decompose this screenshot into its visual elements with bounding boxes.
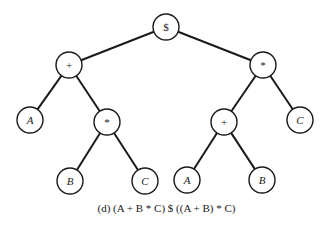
tree-node-b_r: B [249, 167, 275, 193]
expression-tree-figure: $+*A*+CBCAB (d) (A + B * C) $ ((A + B) *… [0, 0, 333, 226]
tree-node-a_r: A [174, 167, 200, 193]
tree-node-times_l: * [94, 109, 120, 135]
tree-edge-times_r-c_r [270, 76, 292, 109]
tree-node-root: $ [153, 14, 179, 40]
node-label: + [66, 59, 72, 71]
tree-edges [38, 32, 293, 170]
node-label: $ [163, 21, 169, 33]
node-label: * [260, 59, 266, 71]
node-label: B [67, 175, 74, 187]
expression-tree: $+*A*+CBCAB [0, 0, 333, 226]
tree-node-b_l: B [57, 168, 83, 194]
tree-node-plus_r: + [211, 109, 237, 135]
tree-node-plus_l: + [56, 52, 82, 78]
tree-edge-plus_r-b_r [231, 133, 255, 169]
tree-edge-plus_l-times_l [76, 76, 100, 111]
tree-edge-root-plus_l [81, 32, 154, 61]
tree-edge-plus_r-a_r [194, 133, 217, 169]
tree-node-a_l: A [17, 107, 43, 133]
tree-node-c_l: C [132, 168, 158, 194]
tree-node-c_r: C [287, 107, 313, 133]
node-label: * [104, 116, 110, 128]
node-label: + [221, 116, 227, 128]
node-label: C [141, 175, 149, 187]
node-label: A [26, 114, 34, 126]
tree-edge-plus_l-a_l [38, 76, 62, 110]
node-label: B [259, 174, 266, 186]
tree-edge-times_r-plus_r [231, 76, 255, 112]
node-label: C [296, 114, 304, 126]
tree-node-times_r: * [250, 52, 276, 78]
tree-edge-root-times_r [178, 32, 251, 61]
figure-caption: (d) (A + B * C) $ ((A + B) * C) [0, 202, 333, 214]
tree-edge-times_l-b_l [77, 133, 100, 170]
tree-edge-times_l-c_l [114, 133, 138, 170]
node-label: A [183, 174, 191, 186]
tree-nodes: $+*A*+CBCAB [17, 14, 313, 194]
